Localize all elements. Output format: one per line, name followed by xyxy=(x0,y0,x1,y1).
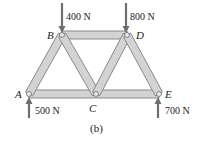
member-CD xyxy=(93,33,131,96)
member-AB xyxy=(26,33,66,96)
joint-label-D: D xyxy=(135,29,144,41)
pin-D xyxy=(125,33,130,38)
pin-C xyxy=(94,92,99,97)
joint-label-C: C xyxy=(89,102,97,114)
pin-B xyxy=(60,33,65,38)
figure-caption: (b) xyxy=(90,122,103,135)
pin-A xyxy=(27,92,32,97)
force-label-400: 400 N xyxy=(66,11,91,22)
truss-members xyxy=(26,31,163,98)
truss-diagram: A B C D E 400 N 800 N 500 N 700 N (b) xyxy=(0,0,203,146)
force-label-700: 700 N xyxy=(165,105,190,116)
joint-label-E: E xyxy=(164,88,172,100)
member-BC xyxy=(59,33,100,96)
arrow-up-icon xyxy=(26,97,33,118)
arrow-down-icon xyxy=(59,3,66,33)
arrow-down-icon xyxy=(123,3,130,33)
force-label-500: 500 N xyxy=(35,105,60,116)
joint-label-A: A xyxy=(14,88,22,100)
arrow-up-icon xyxy=(155,97,162,118)
member-BD xyxy=(62,31,127,39)
force-label-800: 800 N xyxy=(130,11,155,22)
member-DE xyxy=(124,33,163,96)
joint-label-B: B xyxy=(47,29,54,41)
pin-E xyxy=(157,92,162,97)
